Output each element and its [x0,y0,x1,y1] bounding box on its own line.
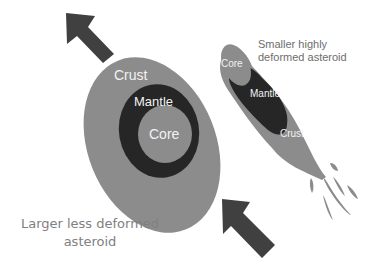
large-mantle-label: Mantle [134,94,173,109]
small-core-label: Core [221,58,243,69]
large-asteroid-caption: Larger less deformed asteroid [12,215,168,251]
small-caption-line2: deformed asteroid [258,51,347,64]
large-caption-line2: asteroid [12,233,168,251]
top-arrow-icon [66,13,114,63]
small-mantle-label: Mantle [250,88,280,99]
large-caption-line1: Larger less deformed [12,215,168,233]
small-asteroid-caption: Smaller highly deformed asteroid [258,38,347,64]
large-core-label: Core [149,126,179,142]
bottom-arrow-icon [222,199,275,258]
small-caption-line1: Smaller highly [258,38,347,51]
small-crust-label: Crust [280,128,304,139]
large-crust-label: Crust [114,67,147,83]
